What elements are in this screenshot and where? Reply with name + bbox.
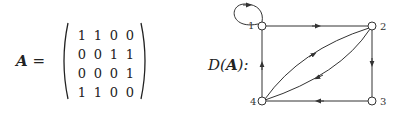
node-label-2: 2 xyxy=(380,21,386,32)
edge-4-2 xyxy=(265,28,369,99)
digraph: 1 2 3 4 xyxy=(0,0,396,115)
node-3 xyxy=(368,97,376,105)
node-label-3: 3 xyxy=(380,96,386,107)
edge-2-4 xyxy=(265,29,370,100)
node-label-4: 4 xyxy=(250,96,256,107)
node-4 xyxy=(258,97,266,105)
node-2 xyxy=(368,22,376,30)
node-1 xyxy=(258,22,266,30)
node-label-1: 1 xyxy=(248,20,254,31)
